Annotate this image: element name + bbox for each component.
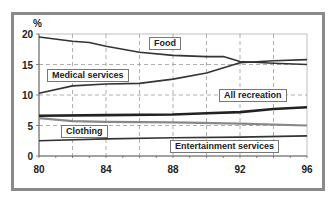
- x-tick-label: 92: [234, 164, 246, 175]
- y-tick-label: 5: [27, 121, 33, 132]
- x-tick-label: 80: [33, 164, 45, 175]
- label-entertainment-services: Entertainment services: [170, 140, 279, 153]
- x-tick-label: 88: [167, 164, 179, 175]
- label-medical-services: Medical services: [47, 69, 129, 82]
- label-clothing: Clothing: [61, 125, 108, 138]
- y-tick-label: 10: [22, 90, 34, 101]
- y-tick-label: 20: [22, 29, 34, 40]
- tick-labels: 808488929605101520: [22, 29, 313, 175]
- x-tick-label: 84: [100, 164, 112, 175]
- label-food: Food: [149, 37, 181, 50]
- y-tick-label: 15: [22, 60, 34, 71]
- label-all-recreation: All recreation: [219, 89, 287, 102]
- y-axis-unit: %: [33, 18, 42, 29]
- y-tick-label: 0: [27, 151, 33, 162]
- x-tick-label: 96: [301, 164, 313, 175]
